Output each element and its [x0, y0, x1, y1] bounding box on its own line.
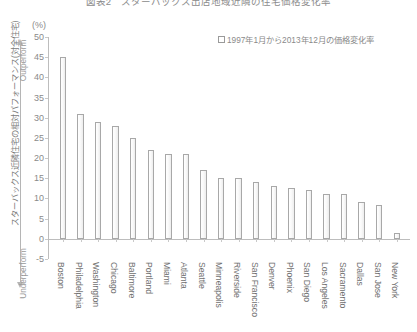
- x-tick-label: Los Angeles: [320, 262, 330, 309]
- x-tick-mark: [221, 239, 222, 242]
- bar[interactable]: [218, 178, 225, 239]
- bar[interactable]: [376, 205, 383, 239]
- x-tick-label: Dallas: [355, 262, 365, 286]
- x-tick-mark: [397, 239, 398, 242]
- plot-area: 50454035302520151050-5: [48, 37, 410, 259]
- x-tick-label: Boston: [56, 262, 66, 289]
- x-tick-label: Philadelphia: [74, 262, 84, 309]
- bar[interactable]: [77, 114, 84, 239]
- x-tick-label: Washington: [91, 262, 101, 307]
- x-tick-label: Phoenix: [285, 262, 295, 293]
- y-tick-label: 25: [34, 133, 44, 143]
- x-tick-label: Denver: [267, 262, 277, 290]
- bar[interactable]: [130, 138, 137, 239]
- x-tick-mark: [151, 239, 152, 242]
- y-tick-label: 0: [39, 234, 44, 244]
- x-tick-label: Seattle: [197, 262, 207, 289]
- performance-direction-axis: Outperform Underperform: [13, 34, 29, 292]
- bar[interactable]: [288, 188, 295, 238]
- outperform-label: Outperform: [19, 21, 28, 101]
- x-tick-mark: [63, 239, 64, 242]
- y-tick-label: 40: [34, 72, 44, 82]
- x-tick-label: Sacramento: [338, 262, 348, 308]
- bar-series: [48, 37, 410, 259]
- underperform-label: Underperform: [19, 234, 28, 314]
- x-tick-mark: [344, 239, 345, 242]
- y-tick-label: 5: [39, 214, 44, 224]
- y-tick-label: 35: [34, 93, 44, 103]
- x-tick-mark: [274, 239, 275, 242]
- x-tick-label: San Francisco: [250, 262, 260, 317]
- chart-title: 図表2 スターバックス出店地域近隣の住宅価格変化率: [0, 0, 417, 6]
- x-tick-mark: [362, 239, 363, 242]
- x-tick-label: Riverside: [232, 262, 242, 298]
- x-tick-label: Miami: [162, 262, 172, 285]
- bar[interactable]: [323, 194, 330, 238]
- bar[interactable]: [200, 170, 207, 239]
- bar[interactable]: [235, 178, 242, 239]
- chart-container: 図表2 スターバックス出店地域近隣の住宅価格変化率 スターバックス近隣住宅の相対…: [0, 0, 417, 332]
- x-tick-label: Atlanta: [179, 262, 189, 289]
- bar[interactable]: [306, 190, 313, 238]
- y-tick-label: 10: [34, 193, 44, 203]
- bar[interactable]: [112, 126, 119, 239]
- bar[interactable]: [60, 57, 67, 239]
- x-tick-mark: [81, 239, 82, 242]
- x-tick-mark: [256, 239, 257, 242]
- y-tick-label: 15: [34, 173, 44, 183]
- y-tick-label: 45: [34, 52, 44, 62]
- x-tick-mark: [133, 239, 134, 242]
- x-tick-label: San Diego: [302, 262, 312, 302]
- y-tick-label: -5: [36, 254, 44, 264]
- y-axis-unit-label: (%): [32, 20, 46, 30]
- y-tick-label: 30: [34, 113, 44, 123]
- x-tick-mark: [309, 239, 310, 242]
- bar[interactable]: [271, 186, 278, 238]
- bar[interactable]: [358, 202, 365, 238]
- x-tick-label: Chicago: [109, 262, 119, 294]
- y-tick-label: 20: [34, 153, 44, 163]
- x-tick-mark: [379, 239, 380, 242]
- y-tick-label: 50: [34, 32, 44, 42]
- bar[interactable]: [148, 150, 155, 239]
- x-tick-label: Portland: [144, 262, 154, 294]
- x-tick-mark: [327, 239, 328, 242]
- x-tick-label: San Jose: [373, 262, 383, 298]
- x-tick-label: Baltimore: [127, 262, 137, 298]
- bar[interactable]: [253, 182, 260, 239]
- y-tick-mark: [45, 259, 48, 260]
- bar[interactable]: [165, 154, 172, 239]
- x-tick-label: New York: [390, 262, 400, 298]
- x-tick-mark: [98, 239, 99, 242]
- x-tick-mark: [204, 239, 205, 242]
- x-tick-mark: [291, 239, 292, 242]
- x-tick-mark: [239, 239, 240, 242]
- x-tick-mark: [186, 239, 187, 242]
- x-tick-mark: [168, 239, 169, 242]
- x-axis-labels: BostonPhiladelphiaWashingtonChicagoBalti…: [48, 262, 410, 332]
- bar[interactable]: [341, 194, 348, 238]
- x-tick-mark: [116, 239, 117, 242]
- bar[interactable]: [183, 154, 190, 239]
- x-tick-label: Minneapolis: [214, 262, 224, 308]
- bar[interactable]: [95, 122, 102, 239]
